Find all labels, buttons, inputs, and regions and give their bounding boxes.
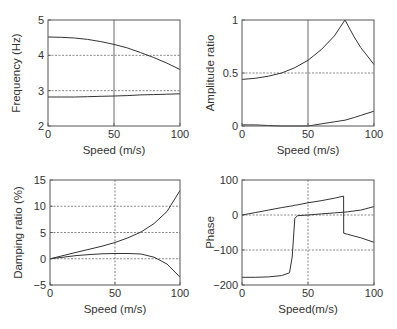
- x-tick-label: 0: [47, 287, 53, 299]
- y-tick-label: −5: [33, 279, 46, 291]
- y-tick-label: −100: [213, 244, 238, 256]
- y-tick-label: 0: [232, 209, 238, 221]
- x-tick-label: 0: [45, 128, 51, 140]
- frequency-chart: 0501002345Speed (m/s)Frequency (Hz): [10, 14, 189, 156]
- figure: 0501002345Speed (m/s)Frequency (Hz)05010…: [0, 0, 397, 329]
- x-tick-label: 50: [302, 287, 314, 299]
- x-tick-label: 100: [171, 128, 189, 140]
- x-tick-label: 100: [365, 128, 383, 140]
- y-tick-label: −200: [213, 279, 238, 291]
- y-tick-label: 15: [34, 174, 46, 186]
- x-axis-label: Speed (m/s): [84, 303, 147, 315]
- x-tick-label: 50: [302, 128, 314, 140]
- y-axis-label: Amplitude ratio: [204, 35, 216, 112]
- damping-ratio-chart: 050100−5051015Speed (m/s)Damping ratio (…: [12, 174, 189, 315]
- series-line-2: [242, 207, 374, 278]
- x-tick-label: 50: [108, 128, 120, 140]
- x-tick-label: 100: [171, 287, 189, 299]
- x-axis-label: Speed (m/s): [277, 144, 340, 156]
- y-tick-label: 3: [38, 85, 44, 97]
- y-tick-label: 100: [220, 174, 238, 186]
- y-tick-label: 0: [40, 253, 46, 265]
- phase-chart: 050100−200−1000100Speed(m/s)Phase: [204, 174, 383, 315]
- x-tick-label: 100: [365, 287, 383, 299]
- x-axis-label: Speed (m/s): [83, 144, 146, 156]
- y-tick-label: 2: [38, 120, 44, 132]
- x-tick-label: 0: [239, 287, 245, 299]
- x-tick-label: 0: [239, 128, 245, 140]
- y-tick-label: 0: [232, 120, 238, 132]
- y-tick-label: 5: [38, 14, 44, 26]
- x-tick-label: 50: [109, 287, 121, 299]
- y-axis-label: Frequency (Hz): [10, 33, 22, 112]
- amplitude-ratio-chart: 05010000.51Speed (m/s)Amplitude ratio: [204, 14, 383, 156]
- y-tick-label: 10: [34, 200, 46, 212]
- y-tick-label: 5: [40, 227, 46, 239]
- y-tick-label: 0.5: [223, 67, 238, 79]
- x-axis-label: Speed(m/s): [278, 303, 338, 315]
- y-tick-label: 1: [232, 14, 238, 26]
- y-axis-label: Phase: [204, 216, 216, 249]
- series-line-1: [50, 191, 180, 259]
- y-tick-label: 4: [38, 49, 44, 61]
- y-axis-label: Damping ratio (%): [12, 186, 24, 279]
